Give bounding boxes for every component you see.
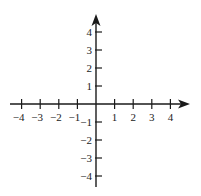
y-tick-label: 1 [87,80,93,92]
x-tick-label: 1 [112,111,118,123]
x-tick-label: −4 [13,111,25,123]
x-tick-labels: −4−3−2−11234 [13,111,174,123]
x-tick-label: 2 [130,111,136,123]
y-tick-label: 4 [87,26,93,38]
x-tick-label: −3 [31,111,43,123]
y-tick-label: −4 [80,170,92,182]
y-tick-label: 2 [87,62,93,74]
coordinate-plane: −4−3−2−11234 4321−1−2−3−4 [0,0,201,196]
y-tick-label: −1 [80,116,92,128]
x-tick-label: 4 [168,111,174,123]
x-tick-label: −1 [69,111,81,123]
y-tick-label: 3 [87,44,93,56]
y-tick-label: −3 [80,152,92,164]
x-tick-label: −2 [50,111,62,123]
y-tick-label: −2 [80,134,92,146]
x-tick-label: 3 [149,111,155,123]
